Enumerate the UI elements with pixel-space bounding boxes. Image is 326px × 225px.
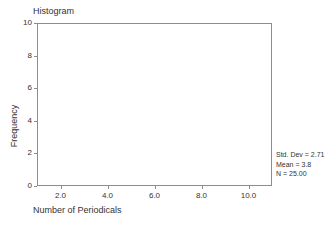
- mean-label: Mean = 3.8: [276, 160, 326, 170]
- x-tick-mark-icon: [155, 186, 156, 189]
- x-tick-mark-icon: [61, 186, 62, 189]
- x-axis-tick-label: 10.0: [235, 190, 263, 201]
- clipped-header-remnant: ............: [88, 0, 198, 3]
- y-axis-tick-label: 2: [28, 147, 32, 158]
- chart-title: Histogram: [33, 6, 74, 17]
- histogram-figure: ............ Histogram 10 8 6 4 2 0 2.0 …: [0, 0, 326, 225]
- x-tick-mark-icon: [202, 186, 203, 189]
- x-axis-title: Number of Periodicals: [33, 204, 122, 216]
- x-axis-tick-label: 2.0: [47, 190, 75, 201]
- y-axis-tick-label: 4: [28, 115, 32, 126]
- y-axis-tick-label: 6: [28, 82, 32, 93]
- y-axis-tick-label: 10: [23, 17, 32, 28]
- y-axis-tick-0: 0: [0, 186, 37, 187]
- x-axis-tick-8: 8.0: [202, 186, 203, 202]
- y-axis-tick-8: 8: [0, 56, 37, 57]
- y-axis-tick-label: 8: [28, 50, 32, 61]
- y-axis-tick-10: 10: [0, 23, 37, 24]
- x-axis-tick-10: 10.0: [249, 186, 250, 202]
- plot-area: [38, 24, 271, 185]
- y-axis-tick-label: 0: [28, 180, 32, 191]
- x-axis-tick-label: 8.0: [188, 190, 216, 201]
- plot-frame: [37, 23, 272, 186]
- std-dev-label: Std. Dev = 2.71: [276, 150, 326, 160]
- y-tick-mark-icon: [34, 186, 37, 187]
- x-tick-mark-icon: [249, 186, 250, 189]
- statistics-annotation: Std. Dev = 2.71 Mean = 3.8 N = 25.00: [276, 150, 326, 179]
- y-axis-tick-6: 6: [0, 88, 37, 89]
- x-axis-tick-4: 4.0: [108, 186, 109, 202]
- n-label: N = 25.00: [276, 169, 326, 179]
- x-axis-tick-6: 6.0: [155, 186, 156, 202]
- x-axis-tick-label: 4.0: [94, 190, 122, 201]
- y-axis-title: Frequency: [8, 91, 20, 161]
- x-axis-tick-2: 2.0: [61, 186, 62, 202]
- x-tick-mark-icon: [108, 186, 109, 189]
- x-axis-tick-label: 6.0: [141, 190, 169, 201]
